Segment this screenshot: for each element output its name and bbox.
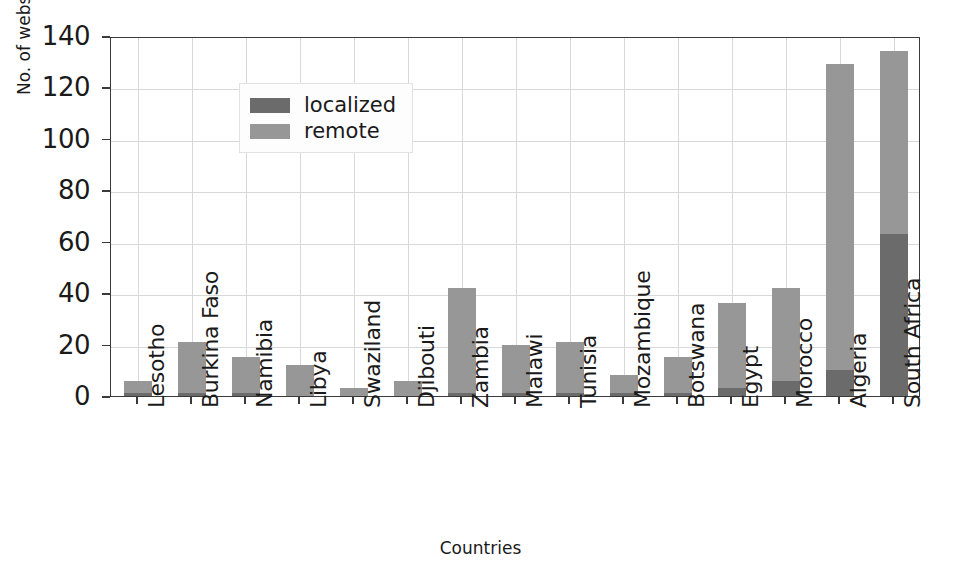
x-axis-tick-label: Namibia (254, 319, 276, 408)
bar-chart-figure: No. of websites 020406080100120140 local… (0, 0, 961, 581)
x-axis-tick-label: Malawi (524, 334, 546, 408)
gridline-vertical (516, 38, 517, 396)
y-axis-tick-mark (102, 345, 110, 347)
x-axis-tick-mark (622, 397, 624, 404)
y-axis-tick-mark (102, 242, 110, 244)
x-axis-tick-mark (784, 397, 786, 404)
x-axis-tick-mark (244, 397, 246, 404)
chart-legend: localized remote (239, 83, 413, 153)
x-axis-tick-mark (514, 397, 516, 404)
y-axis-tick-label: 140 (18, 23, 90, 49)
x-axis-tick-mark (730, 397, 732, 404)
x-axis-tick-mark (568, 397, 570, 404)
x-axis-tick-label: Egypt (740, 346, 762, 408)
y-axis-tick-label: 100 (18, 126, 90, 152)
x-axis-tick-mark (352, 397, 354, 404)
y-axis-tick-label: 60 (18, 229, 90, 255)
y-axis-tick-mark (102, 396, 110, 398)
legend-swatch-remote (250, 124, 290, 139)
x-axis-tick-label: Zambia (470, 326, 492, 408)
gridline-horizontal (111, 244, 919, 245)
y-axis-tick-mark (102, 36, 110, 38)
legend-item-localized: localized (250, 92, 396, 118)
gridline-horizontal (111, 141, 919, 142)
gridline-vertical (678, 38, 679, 396)
x-axis-tick-mark (136, 397, 138, 404)
gridline-horizontal (111, 89, 919, 90)
x-axis-tick-label: Swaziland (362, 300, 384, 408)
x-axis-tick-mark (676, 397, 678, 404)
legend-label-remote: remote (304, 121, 380, 142)
gridline-horizontal (111, 192, 919, 193)
y-axis-tick-label: 120 (18, 74, 90, 100)
y-axis-tick-label: 20 (18, 332, 90, 358)
x-axis-tick-label: Botswana (686, 303, 708, 408)
x-axis-tick-mark (406, 397, 408, 404)
x-axis-tick-label: Algeria (848, 333, 870, 408)
x-axis-tick-label: Djibouti (416, 325, 438, 408)
y-axis-title: No. of websites (14, 0, 34, 120)
gridline-vertical (138, 38, 139, 396)
x-axis-tick-label: South Africa (902, 278, 924, 408)
x-axis-tick-mark (838, 397, 840, 404)
legend-label-localized: localized (304, 95, 396, 116)
y-axis-tick-label: 40 (18, 280, 90, 306)
y-axis-tick-mark (102, 87, 110, 89)
legend-swatch-localized (250, 98, 290, 113)
x-axis-title: Countries (0, 538, 961, 558)
x-axis-tick-mark (460, 397, 462, 404)
x-axis-tick-mark (892, 397, 894, 404)
y-axis-tick-mark (102, 190, 110, 192)
x-axis-tick-label: Tunisia (578, 335, 600, 408)
x-axis-tick-label: Burkina Faso (200, 271, 222, 408)
x-axis-tick-label: Libya (308, 351, 330, 408)
x-axis-tick-label: Lesotho (146, 324, 168, 408)
x-axis-tick-mark (190, 397, 192, 404)
gridline-vertical (624, 38, 625, 396)
y-axis-tick-label: 80 (18, 177, 90, 203)
bar-segment-remote (826, 64, 854, 370)
bar-segment-remote (880, 51, 908, 234)
y-axis-tick-label: 0 (18, 383, 90, 409)
x-axis-tick-mark (298, 397, 300, 404)
y-axis-tick-mark (102, 293, 110, 295)
y-axis-tick-mark (102, 139, 110, 141)
legend-item-remote: remote (250, 118, 396, 144)
x-axis-tick-label: Morocco (794, 318, 816, 408)
x-axis-tick-label: Mozambique (632, 271, 654, 408)
